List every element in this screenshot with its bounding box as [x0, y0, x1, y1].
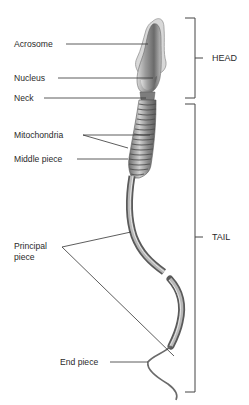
label-principal-piece-line1: Principal	[14, 241, 47, 252]
label-mitochondria: Mitochondria	[14, 130, 63, 140]
tail-bracket	[185, 104, 203, 392]
neck-shape	[140, 92, 155, 100]
mitochondria-leader-2	[83, 135, 128, 148]
region-label-head: HEAD	[212, 53, 237, 63]
head-bracket	[185, 18, 203, 98]
region-label-tail: TAIL	[212, 232, 230, 242]
label-neck: Neck	[14, 93, 34, 103]
middle-piece-illustration	[129, 100, 156, 178]
label-nucleus: Nucleus	[14, 73, 45, 83]
principal-piece-leader-1	[62, 232, 131, 247]
label-middle-piece: Middle piece	[14, 154, 62, 164]
label-principal-piece-line2: piece	[14, 252, 35, 263]
label-acrosome: Acrosome	[14, 39, 53, 49]
leader-lines	[44, 44, 174, 362]
head-illustration	[136, 19, 167, 100]
sperm-diagram: Acrosome Nucleus Neck Mitochondria Middl…	[0, 0, 249, 405]
label-end-piece: End piece	[60, 357, 98, 367]
